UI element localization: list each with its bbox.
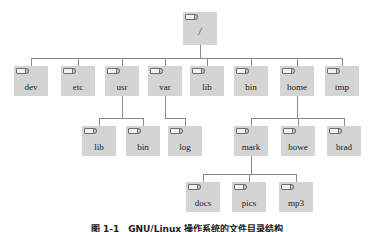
tree-node-label: dev	[14, 82, 48, 92]
tree-node-label: home	[280, 82, 314, 92]
figure-caption: 图 1-1 GNU/Linux 操作系统的文件目录结构	[0, 224, 374, 232]
tree-node-label: brad	[327, 142, 361, 152]
tree-node-label: bin	[126, 142, 160, 152]
connector-var-stem	[165, 96, 166, 118]
connector-root-stem	[200, 45, 201, 59]
tree-node-var[interactable]: var	[148, 66, 182, 96]
tree-node-tmp[interactable]: tmp	[325, 66, 359, 96]
tree-node-bin[interactable]: bin	[234, 66, 268, 96]
folder-icon	[63, 68, 76, 74]
folder-icon	[84, 128, 97, 134]
tree-node-mark[interactable]: mark	[234, 126, 268, 156]
folder-icon	[236, 68, 249, 74]
tree-node-lib[interactable]: lib	[190, 66, 224, 96]
folder-icon	[234, 184, 247, 190]
tree-node-label: tmp	[325, 82, 359, 92]
tree-node-label: log	[168, 142, 202, 152]
tree-node-label: mp3	[279, 198, 313, 208]
folder-icon	[192, 68, 205, 74]
tree-node-home[interactable]: home	[280, 66, 314, 96]
tree-node-usr-bin[interactable]: bin	[126, 126, 160, 156]
folder-icon	[282, 68, 295, 74]
tree-node-label: lib	[82, 142, 116, 152]
tree-node-label: mark	[234, 142, 268, 152]
tree-node-label: bin	[234, 82, 268, 92]
folder-icon	[150, 68, 163, 74]
tree-node-pics[interactable]: pics	[232, 182, 266, 212]
folder-icon	[188, 184, 201, 190]
folder-icon	[185, 14, 198, 20]
connector-mark-stem	[251, 156, 252, 174]
tree-node-label: lib	[190, 82, 224, 92]
tree-node-mp3[interactable]: mp3	[279, 182, 313, 212]
tree-node-dev[interactable]: dev	[14, 66, 48, 96]
tree-node-label: pics	[232, 198, 266, 208]
tree-node-usr-lib[interactable]: lib	[82, 126, 116, 156]
tree-node-label: /	[183, 27, 217, 37]
tree-node-brad[interactable]: brad	[327, 126, 361, 156]
connector-var-bus	[165, 118, 185, 119]
tree-node-bowe[interactable]: bowe	[281, 126, 315, 156]
connector-home-stem	[297, 96, 298, 118]
tree-node-label: var	[148, 82, 182, 92]
folder-icon	[128, 128, 141, 134]
tree-node-label: usr	[105, 82, 139, 92]
folder-icon	[107, 68, 120, 74]
tree-node-label: bowe	[281, 142, 315, 152]
folder-icon	[281, 184, 294, 190]
tree-node-var-log[interactable]: log	[168, 126, 202, 156]
tree-node-usr[interactable]: usr	[105, 66, 139, 96]
folder-icon	[16, 68, 29, 74]
tree-node-etc[interactable]: etc	[61, 66, 95, 96]
tree-node-docs[interactable]: docs	[186, 182, 220, 212]
folder-icon	[236, 128, 249, 134]
tree-node-label: docs	[186, 198, 220, 208]
folder-icon	[283, 128, 296, 134]
tree-node-root[interactable]: /	[183, 12, 217, 45]
folder-icon	[329, 128, 342, 134]
folder-icon	[170, 128, 183, 134]
connector-usr-bus	[99, 118, 143, 119]
folder-icon	[327, 68, 340, 74]
tree-node-label: etc	[61, 82, 95, 92]
connector-usr-stem	[122, 96, 123, 118]
filesystem-tree-diagram: / dev etc usr var lib bin home tmp lib b…	[0, 0, 374, 232]
